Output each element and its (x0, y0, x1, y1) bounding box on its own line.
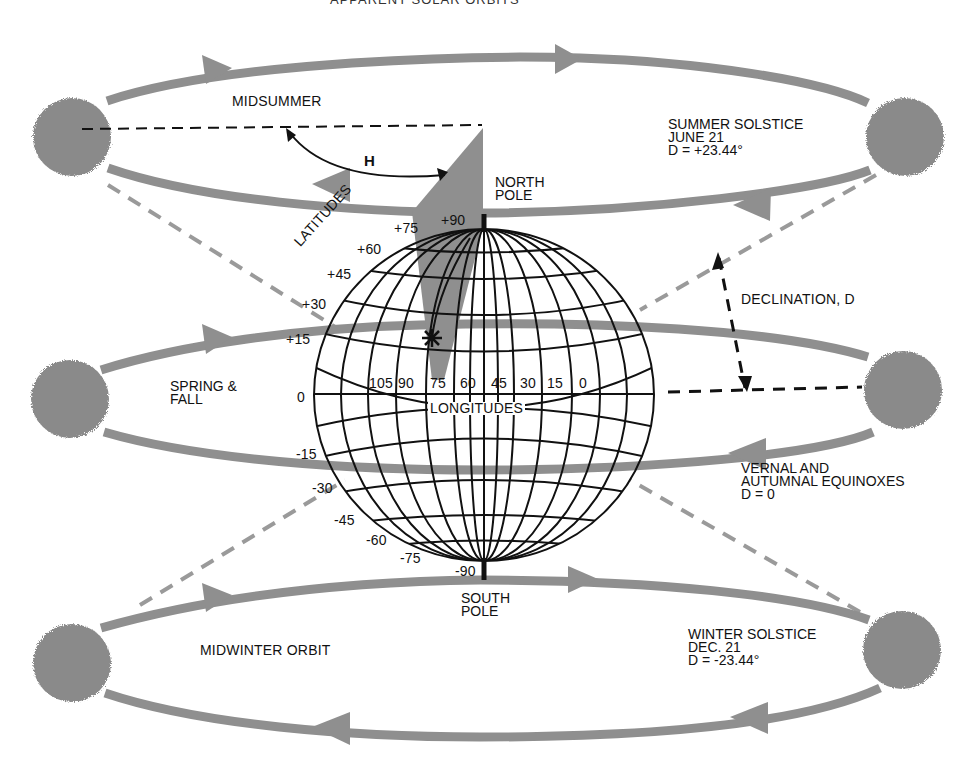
sun-midwinter-left (33, 624, 111, 702)
sun-equinox (864, 351, 942, 429)
spring-fall-label: SPRING & FALL (170, 380, 237, 406)
sun-summer-solstice (866, 98, 944, 176)
globe (300, 214, 668, 580)
equinox-annotation: VERNAL AND AUTUMNAL EQUINOXES D = 0 (741, 462, 905, 501)
lat-label: -60 (366, 534, 387, 547)
label-midsummer: MIDSUMMER (232, 95, 322, 108)
lon-label: 0 (579, 377, 587, 390)
hour-angle-arrowhead-left (286, 128, 296, 142)
lon-label: 15 (547, 377, 563, 390)
lat-label: +90 (441, 214, 465, 227)
sun-winter-solstice (863, 611, 941, 689)
lon-label: 75 (430, 377, 446, 390)
lon-label: 105 (369, 377, 393, 390)
lat-label: +75 (394, 222, 418, 235)
summer-solstice-declination: D = +23.44° (668, 144, 803, 157)
north-pole-line2: POLE (495, 189, 545, 202)
spring-fall-line2: FALL (170, 393, 237, 406)
lon-label: 90 (398, 377, 414, 390)
equinox-line3: D = 0 (741, 488, 905, 501)
north-pole-label: NORTH POLE (495, 176, 545, 202)
lon-label: 60 (460, 377, 476, 390)
equinox-reference-line (668, 387, 862, 392)
declination-label: DECLINATION, D (741, 293, 855, 306)
lat-label: -90 (455, 565, 476, 578)
lat-label: -15 (296, 448, 317, 461)
winter-solstice-annotation: WINTER SOLSTICE DEC. 21 D = -23.44° (688, 628, 816, 667)
longitudes-title: LONGITUDES (428, 402, 525, 415)
lat-label: -45 (334, 514, 355, 527)
lat-label: 0 (297, 391, 305, 404)
diagram-canvas (0, 0, 974, 768)
summer-solstice-annotation: SUMMER SOLSTICE JUNE 21 D = +23.44° (668, 118, 803, 157)
lon-label: 45 (491, 377, 507, 390)
sun-spring-left (31, 360, 109, 438)
lat-label: +30 (302, 298, 326, 311)
declination-arrow-line (719, 258, 745, 388)
south-pole-label: SOUTH POLE (461, 592, 510, 618)
lon-label: 30 (520, 377, 536, 390)
lat-label: +60 (357, 243, 381, 256)
observer-star-icon (422, 329, 442, 347)
label-hour-angle: H (364, 152, 375, 169)
south-pole-line2: POLE (461, 605, 510, 618)
sun-midsummer-left (33, 98, 111, 176)
lat-label: -30 (312, 482, 333, 495)
lat-label: -75 (400, 552, 421, 565)
winter-solstice-declination: D = -23.44° (688, 654, 816, 667)
lat-label: +45 (327, 268, 351, 281)
lat-label: +15 (286, 333, 310, 346)
hour-angle-reference-line (82, 125, 482, 129)
label-midwinter-orbit: MIDWINTER ORBIT (200, 644, 331, 657)
